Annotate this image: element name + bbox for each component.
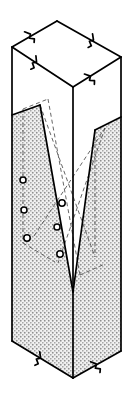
hole-left-face-2: [21, 207, 27, 213]
hole-center-lower: [57, 251, 63, 257]
hole-center-middle: [54, 224, 60, 230]
hole-left-face-1: [20, 177, 26, 183]
hole-center-upper: [59, 200, 65, 206]
hole-left-face-3: [24, 235, 30, 241]
isometric-notched-post-drawing: [0, 0, 133, 399]
figure-container: [0, 0, 133, 399]
